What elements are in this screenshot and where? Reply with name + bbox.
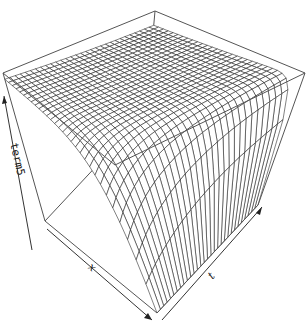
surface-mesh <box>5 25 288 313</box>
arrowhead-icon <box>256 207 262 215</box>
arrowhead-icon <box>2 96 7 104</box>
mesh-facet <box>234 123 240 162</box>
surface-plot: term5 x t <box>0 0 307 322</box>
t-axis-label: t <box>205 269 218 281</box>
mesh-facet <box>229 128 235 168</box>
z-axis: term5 <box>2 96 32 250</box>
